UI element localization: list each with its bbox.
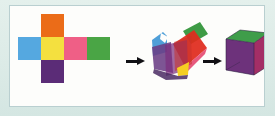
figure-panel-inner [10, 6, 264, 106]
arrow-2-icon [203, 57, 223, 66]
completed-cube [223, 28, 264, 84]
arrow-2-head [214, 57, 222, 65]
net-square-center [41, 37, 64, 60]
arrow-1-icon [126, 57, 146, 66]
figure-panel [9, 5, 265, 107]
partially-folded-cube-svg [147, 18, 209, 92]
figure-root [0, 0, 275, 116]
net-square-left [18, 37, 41, 60]
partially-folded-cube [147, 18, 209, 92]
net-square-bottom [41, 60, 64, 83]
arrow-1-head [137, 57, 145, 65]
cube-net-diagram [18, 9, 118, 105]
net-square-far-right [87, 37, 110, 60]
net-square-right [64, 37, 87, 60]
net-square-top [41, 14, 64, 37]
completed-cube-svg [223, 28, 264, 84]
cube-left-face-tint [226, 39, 254, 75]
